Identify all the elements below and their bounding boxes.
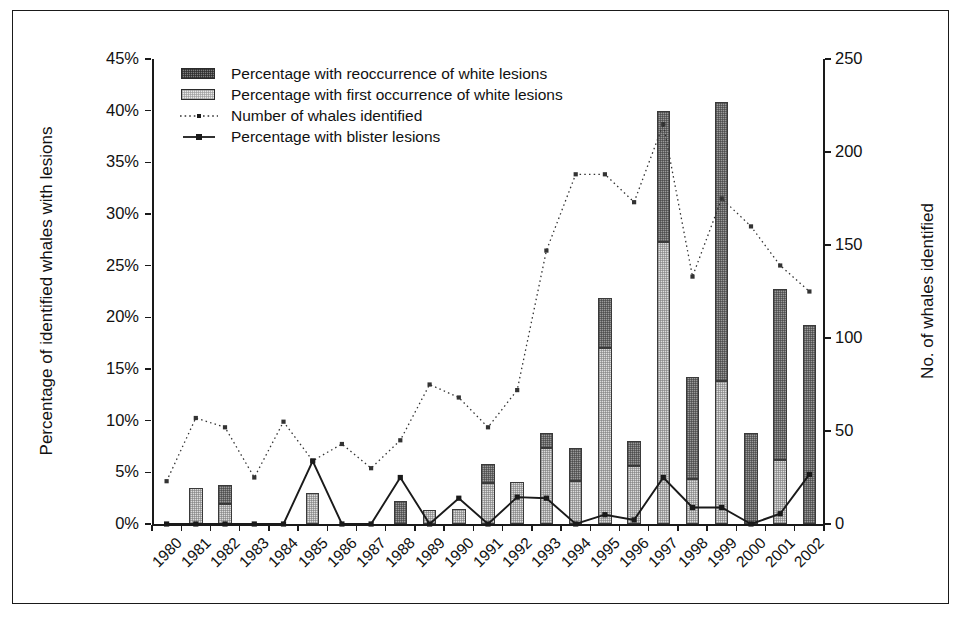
legend-item-first-occurrence: Percentage with first occurrence of whit… [179,84,609,105]
chart-legend: Percentage with reoccurrence of white le… [179,63,609,147]
marker-whales-identified [749,224,753,228]
marker-blister-lesions [281,521,286,526]
x-tick [765,525,766,531]
y-tick-left [145,420,151,421]
y-tick-right [825,523,831,524]
marker-whales-identified [632,200,636,204]
marker-whales-identified [340,442,344,446]
marker-whales-identified [603,172,607,176]
y-tick-label-right: 250 [835,50,895,67]
marker-blister-lesions [252,521,257,526]
x-tick [590,525,591,531]
x-tick [181,525,182,531]
marker-whales-identified [661,122,665,126]
chart-frame: Percentage of identified whales with les… [12,10,949,604]
marker-blister-lesions [456,496,461,501]
x-tick [414,525,415,531]
y-tick-label-right: 0 [835,515,895,532]
y-tick-left [145,110,151,111]
line-blister-lesions [167,461,810,524]
y-tick-left [145,523,151,524]
x-tick [794,525,795,531]
y-tick-label-left: 35% [79,153,139,170]
legend-label-blister-lesions: Percentage with blister lesions [231,128,440,146]
legend-label-whales-identified: Number of whales identified [231,107,422,125]
y-tick-label-left: 0% [79,515,139,532]
y-tick-right [825,151,831,152]
y-tick-left [145,317,151,318]
y-tick-label-left: 15% [79,360,139,377]
y-axis-title-right: No. of whales identified [918,81,938,501]
x-tick [619,525,620,531]
legend-label-reoccurrence: Percentage with reoccurrence of white le… [231,65,547,83]
marker-whales-identified [807,289,811,293]
x-tick [560,525,561,531]
x-tick [443,525,444,531]
y-tick-label-left: 20% [79,308,139,325]
y-tick-left [145,368,151,369]
chart-page: Percentage of identified whales with les… [0,0,963,617]
x-tick [356,525,357,531]
marker-whales-identified [223,425,227,429]
y-tick-label-right: 50 [835,422,895,439]
y-tick-right [825,430,831,431]
legend-item-whales-identified: Number of whales identified [179,105,609,126]
y-tick-right [825,244,831,245]
y-tick-left [145,162,151,163]
marker-whales-identified [194,416,198,420]
y-tick-label-left: 40% [79,102,139,119]
x-tick [502,525,503,531]
marker-whales-identified [574,172,578,176]
y-tick-left [145,213,151,214]
marker-blister-lesions [369,521,374,526]
x-tick [531,525,532,531]
marker-whales-identified [398,438,402,442]
x-tick [239,525,240,531]
marker-whales-identified [281,420,285,424]
legend-swatch-reoccurrence-icon [179,63,219,84]
y-tick-right [825,337,831,338]
marker-blister-lesions [807,472,812,477]
marker-blister-lesions [602,512,607,517]
marker-blister-lesions [339,521,344,526]
x-tick [473,525,474,531]
x-tick [327,525,328,531]
marker-whales-identified [252,475,256,479]
marker-whales-identified [778,263,782,267]
y-tick-label-right: 200 [835,143,895,160]
marker-whales-identified [515,388,519,392]
marker-blister-lesions [222,521,227,526]
marker-blister-lesions [485,521,490,526]
x-tick [268,525,269,531]
marker-whales-identified [457,395,461,399]
marker-whales-identified [428,382,432,386]
marker-blister-lesions [193,521,198,526]
legend-item-reoccurrence: Percentage with reoccurrence of white le… [179,63,609,84]
marker-blister-lesions [164,521,169,526]
legend-item-blister-lesions: Percentage with blister lesions [179,126,609,147]
marker-whales-identified [690,275,694,279]
x-tick [823,525,824,531]
marker-whales-identified [544,249,548,253]
x-tick [648,525,649,531]
marker-blister-lesions [632,517,637,522]
legend-swatch-first-occurrence-icon [179,84,219,105]
marker-whales-identified [720,196,724,200]
x-tick [297,525,298,531]
marker-blister-lesions [719,505,724,510]
y-tick-label-left: 30% [79,205,139,222]
marker-blister-lesions [661,475,666,480]
y-tick-label-left: 45% [79,50,139,67]
marker-blister-lesions [427,521,432,526]
y-axis-title-left: Percentage of identified whales with les… [37,81,57,501]
x-tick [385,525,386,531]
y-tick-label-right: 100 [835,329,895,346]
marker-blister-lesions [544,496,549,501]
y-tick-label-right: 150 [835,236,895,253]
x-tick [706,525,707,531]
x-tick [736,525,737,531]
y-tick-label-left: 5% [79,463,139,480]
y-tick-left [145,472,151,473]
legend-solid-line-icon [179,126,219,147]
marker-whales-identified [369,466,373,470]
